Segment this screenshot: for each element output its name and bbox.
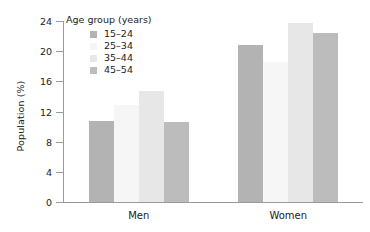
y-tick-mark <box>56 172 63 173</box>
legend: Age group (years) 15–2425–3435–4445–54 <box>62 14 192 76</box>
legend-item-label: 25–34 <box>104 41 133 51</box>
x-tick-label: Men <box>128 210 149 221</box>
y-tick-mark <box>56 142 63 143</box>
bar <box>288 23 313 202</box>
legend-items: 15–2425–3435–4445–54 <box>62 28 192 76</box>
legend-item-label: 45–54 <box>104 65 133 75</box>
legend-item-label: 15–24 <box>104 29 133 39</box>
y-tick-mark <box>56 81 63 82</box>
y-tick-label: 0 <box>12 197 52 208</box>
y-tick-label: 24 <box>12 16 52 27</box>
x-tick-label: Women <box>269 210 307 221</box>
legend-item: 45–54 <box>90 64 192 76</box>
legend-title: Age group (years) <box>66 14 192 25</box>
legend-swatch-icon <box>90 67 97 74</box>
legend-item-label: 35–44 <box>104 53 133 63</box>
y-tick-label: 12 <box>12 107 52 118</box>
legend-item: 15–24 <box>90 28 192 40</box>
legend-item: 25–34 <box>90 40 192 52</box>
y-tick-mark <box>56 202 63 203</box>
x-axis-line <box>63 202 363 203</box>
y-tick-label: 8 <box>12 137 52 148</box>
legend-item: 35–44 <box>90 52 192 64</box>
legend-swatch-icon <box>90 43 97 50</box>
y-tick-label: 20 <box>12 46 52 57</box>
legend-swatch-icon <box>90 55 97 62</box>
legend-swatch-icon <box>90 31 97 38</box>
bar <box>263 62 288 202</box>
y-tick-label: 16 <box>12 76 52 87</box>
bar <box>313 33 338 202</box>
y-tick-label: 4 <box>12 167 52 178</box>
bar <box>238 45 263 202</box>
bar-chart: Population (%) 04812162024 MenWomen Age … <box>0 0 370 232</box>
bar <box>114 105 139 202</box>
bar <box>89 121 114 202</box>
bar <box>164 122 189 202</box>
y-tick-mark <box>56 112 63 113</box>
bar <box>139 91 164 202</box>
